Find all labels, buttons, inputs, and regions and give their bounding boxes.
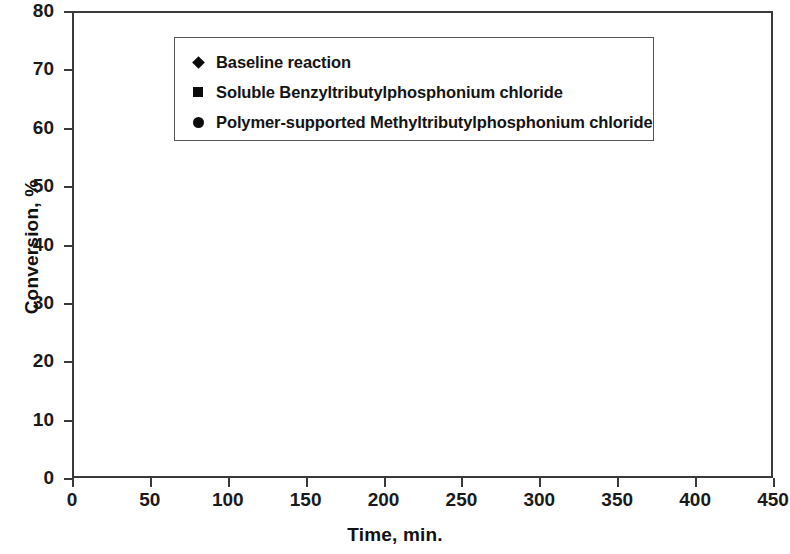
x-axis-tick-label: 350 <box>587 490 647 509</box>
x-axis-tick-mark <box>228 478 230 487</box>
x-axis-tick-label: 250 <box>431 490 491 509</box>
legend-item-label: Soluble Benzyltributylphosphonium chlori… <box>216 83 563 102</box>
x-axis-tick-mark <box>72 478 74 487</box>
plot-area: Baseline reaction Soluble Benzyltributyl… <box>72 11 773 478</box>
legend-item-label: Polymer-supported Methyltributylphosphon… <box>216 113 653 132</box>
legend-item-label: Baseline reaction <box>216 53 351 72</box>
x-axis-tick-mark <box>150 478 152 487</box>
y-axis-tick-label: 60 <box>8 118 54 137</box>
x-axis-tick-label: 150 <box>276 490 336 509</box>
diamond-marker-icon <box>189 58 207 67</box>
chart-legend: Baseline reaction Soluble Benzyltributyl… <box>174 37 654 141</box>
x-axis-tick-label: 50 <box>120 490 180 509</box>
y-axis-tick-label: 80 <box>8 1 54 20</box>
x-axis-tick-mark <box>384 478 386 487</box>
y-axis-tick-label: 30 <box>8 293 54 312</box>
x-axis-tick-label: 300 <box>509 490 569 509</box>
y-axis-tick-label: 40 <box>8 235 54 254</box>
y-axis-tick-label: 50 <box>8 176 54 195</box>
scatter-chart-figure: Conversion, % 01020304050607080 Baseline… <box>0 0 790 554</box>
x-axis-tick-mark <box>306 478 308 487</box>
square-marker-icon <box>189 87 207 97</box>
legend-item: Baseline reaction <box>189 47 653 77</box>
legend-item: Polymer-supported Methyltributylphosphon… <box>189 107 653 137</box>
x-axis-tick-mark <box>695 478 697 487</box>
x-axis-tick-label: 0 <box>42 490 102 509</box>
x-axis-tick-label: 400 <box>665 490 725 509</box>
y-axis-tick-label: 20 <box>8 351 54 370</box>
x-axis-tick-label: 450 <box>743 490 790 509</box>
x-axis-tick-label: 200 <box>354 490 414 509</box>
x-axis-tick-mark <box>773 478 775 487</box>
x-axis-title: Time, min. <box>0 524 790 546</box>
x-axis-tick-label: 100 <box>198 490 258 509</box>
legend-item: Soluble Benzyltributylphosphonium chlori… <box>189 77 653 107</box>
x-axis-tick-mark <box>461 478 463 487</box>
y-axis-tick-label: 0 <box>8 468 54 487</box>
circle-marker-icon <box>189 117 207 128</box>
y-axis-tick-label: 70 <box>8 59 54 78</box>
y-axis-tick-label: 10 <box>8 410 54 429</box>
x-axis-tick-mark <box>539 478 541 487</box>
x-axis-tick-mark <box>617 478 619 487</box>
